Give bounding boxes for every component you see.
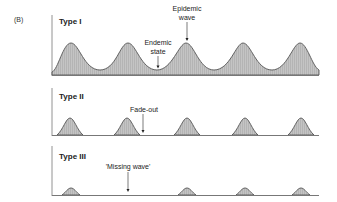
endemic-wave-curve [52, 43, 319, 75]
arrowhead-icon [142, 130, 145, 133]
epidemic-wave-label-line1: Epidemic [173, 5, 202, 13]
type-3-panel: Type III 'Missing wave' [52, 146, 319, 196]
type-2-panel: Type II Fade-out [52, 88, 319, 136]
arrowhead-icon [127, 189, 130, 192]
type-2-title: Type II [59, 92, 84, 101]
missing-wave-curve [62, 188, 310, 195]
endemic-state-label-line2: state [150, 48, 165, 55]
type-1-panel: Type I Epidemic wave Endemic state [52, 5, 319, 76]
epidemic-wave-label-line2: wave [178, 14, 195, 21]
panel-label: (B) [14, 16, 23, 24]
missing-wave-label: 'Missing wave' [106, 163, 151, 171]
endemic-state-label-line1: Endemic [144, 39, 172, 46]
arrowhead-icon [186, 38, 189, 41]
epidemic-types-diagram: (B) Type I Epidemic wave Endemic state T… [0, 0, 337, 202]
arrowhead-icon [157, 66, 160, 69]
fade-out-wave-curve [57, 118, 314, 135]
type-3-title: Type III [59, 152, 86, 161]
type-1-title: Type I [59, 17, 82, 26]
fade-out-label: Fade-out [130, 106, 158, 113]
